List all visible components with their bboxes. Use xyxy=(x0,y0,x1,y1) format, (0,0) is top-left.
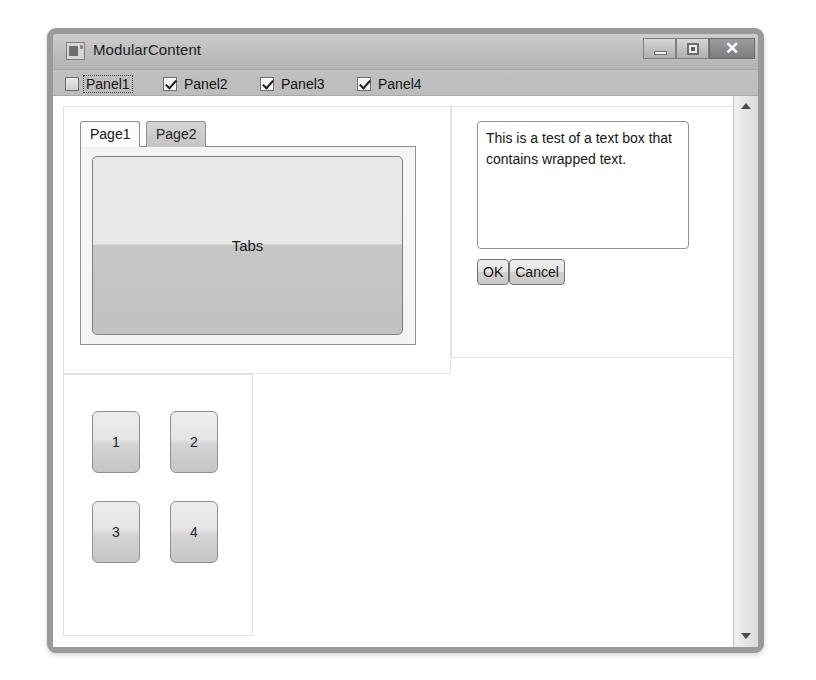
panel-tabcontrol: Page1 Page2 Tabs xyxy=(63,106,451,374)
number-button-4[interactable]: 4 xyxy=(170,501,218,563)
checkbox-panel1[interactable]: Panel1 xyxy=(65,74,132,93)
number-button-3-label: 3 xyxy=(112,524,120,540)
number-button-1[interactable]: 1 xyxy=(92,411,140,473)
panel-textbox: This is a test of a text box that contai… xyxy=(451,106,737,358)
minimize-button[interactable] xyxy=(643,38,676,59)
checkbox-panel4-box[interactable] xyxy=(357,77,371,91)
number-button-grid: 1 2 3 4 xyxy=(92,411,224,563)
scroll-up-arrow-icon xyxy=(741,103,751,109)
desktop-background: ModularContent ✕ Panel1 Panel2 xyxy=(0,0,816,680)
checkbox-panel4-label: Panel4 xyxy=(376,76,424,92)
scroll-down-arrow-icon xyxy=(741,633,751,639)
checkbox-panel2-label: Panel2 xyxy=(182,76,230,92)
application-window: ModularContent ✕ Panel1 Panel2 xyxy=(47,28,764,653)
tab-control: Page1 Page2 Tabs xyxy=(80,121,416,345)
tab-page2-label: Page2 xyxy=(156,126,196,142)
vertical-scrollbar[interactable] xyxy=(733,96,758,647)
checkbox-panel3[interactable]: Panel3 xyxy=(260,74,327,93)
dialog-button-row: OK Cancel xyxy=(477,259,565,285)
checkbox-panel4[interactable]: Panel4 xyxy=(357,74,424,93)
number-button-2-label: 2 xyxy=(190,434,198,450)
tabs-content-button-label: Tabs xyxy=(232,237,264,254)
ok-button-label: OK xyxy=(483,264,503,280)
window-titlebar[interactable]: ModularContent ✕ xyxy=(53,34,758,69)
panel-number-buttons: 1 2 3 4 xyxy=(63,374,253,636)
cancel-button[interactable]: Cancel xyxy=(509,259,565,285)
scroll-up-arrow-button[interactable] xyxy=(734,96,758,118)
panel-toggle-strip: Panel1 Panel2 Panel3 Panel4 xyxy=(53,69,758,96)
app-icon-glyph xyxy=(69,46,78,56)
close-button[interactable]: ✕ xyxy=(709,38,755,59)
app-icon-glyph-small xyxy=(80,45,83,49)
tab-page2[interactable]: Page2 xyxy=(146,121,206,147)
minimize-icon xyxy=(654,51,667,55)
ok-button[interactable]: OK xyxy=(477,259,509,285)
close-icon: ✕ xyxy=(710,39,754,58)
client-area: Page1 Page2 Tabs This is a test of xyxy=(53,95,758,647)
maximize-button[interactable] xyxy=(676,38,709,59)
checkbox-panel3-box[interactable] xyxy=(260,77,274,91)
window-title: ModularContent xyxy=(93,41,201,58)
number-button-1-label: 1 xyxy=(112,434,120,450)
checkbox-panel2-box[interactable] xyxy=(163,77,177,91)
wrapped-text-input[interactable]: This is a test of a text box that contai… xyxy=(477,121,689,249)
checkbox-panel1-box[interactable] xyxy=(65,77,79,91)
number-button-2[interactable]: 2 xyxy=(170,411,218,473)
cancel-button-label: Cancel xyxy=(515,264,559,280)
app-icon xyxy=(66,42,85,60)
number-button-4-label: 4 xyxy=(190,524,198,540)
tabs-content-button[interactable]: Tabs xyxy=(92,156,403,335)
scroll-down-arrow-button[interactable] xyxy=(734,625,758,647)
checkbox-panel2[interactable]: Panel2 xyxy=(163,74,230,93)
checkbox-panel1-label: Panel1 xyxy=(84,76,132,92)
maximize-icon xyxy=(687,43,699,55)
tab-page1[interactable]: Page1 xyxy=(80,121,140,147)
tab-page-body: Tabs xyxy=(80,146,416,345)
tab-page1-label: Page1 xyxy=(90,126,130,142)
number-button-3[interactable]: 3 xyxy=(92,501,140,563)
checkbox-panel3-label: Panel3 xyxy=(279,76,327,92)
